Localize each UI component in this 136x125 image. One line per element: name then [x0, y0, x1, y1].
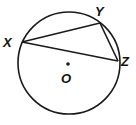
center-point [66, 62, 70, 66]
chord-xz [22, 42, 118, 61]
diagram-canvas: X Y Z O [0, 0, 136, 125]
point-label-x: X [2, 35, 13, 50]
center-label-o: O [61, 71, 71, 86]
circle-diagram: X Y Z O [0, 0, 136, 125]
point-label-y: Y [95, 4, 105, 19]
point-label-z: Z [120, 54, 130, 69]
